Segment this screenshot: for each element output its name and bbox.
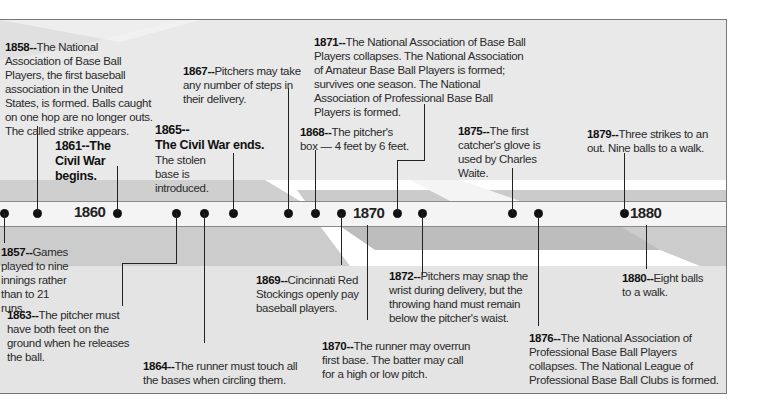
event-headline: Civil War begins. (55, 154, 145, 184)
event-year: 1872-- (389, 270, 420, 282)
event-1864: 1864--The runner must touch all the base… (143, 359, 298, 387)
connector-1867 (288, 88, 289, 213)
event-1869: 1869--Cincinnati Red Stockings openly pa… (256, 273, 361, 315)
connector-1858 (37, 126, 38, 213)
connector-1879 (624, 153, 625, 213)
connector-1872 (422, 213, 423, 275)
connector-1868 (315, 150, 316, 213)
decade-label-1870: 1870 (353, 204, 384, 221)
event-year: 1864-- (143, 360, 174, 372)
connector-1880 (646, 225, 647, 269)
connector-1863-c (122, 263, 123, 306)
event-headline: The Civil War ends. (155, 138, 265, 153)
event-year: 1870-- (322, 340, 353, 352)
decade-label-1880: 1880 (630, 204, 661, 221)
event-1879: 1879--Three strikes to an out. Nine ball… (587, 127, 712, 155)
connector-1871-b (397, 160, 425, 161)
event-year: 1869-- (256, 274, 287, 286)
event-1880: 1880--Eight balls to a walk. (622, 271, 712, 299)
event-year: 1875-- (458, 125, 489, 137)
event-1876: 1876--The National Association of Profes… (529, 331, 719, 387)
connector-1857 (4, 213, 5, 243)
connector-1876 (538, 213, 539, 326)
event-year: 1880-- (622, 272, 653, 284)
connector-1863-a (176, 213, 177, 263)
event-year: 1868-- (300, 126, 331, 138)
event-year: 1876-- (529, 332, 560, 344)
event-year: 1861--The (55, 139, 145, 154)
event-year: 1865-- (155, 123, 265, 138)
event-1858: 1858--The National Association of Base B… (5, 40, 155, 138)
event-year: 1871-- (314, 36, 345, 48)
event-year: 1863-- (7, 309, 38, 321)
event-1875: 1875--The first catcher's glove is used … (458, 124, 563, 180)
event-year: 1858-- (5, 41, 36, 53)
event-1867: 1867--Pitchers may take any number of st… (183, 64, 303, 106)
event-1871: 1871--The National Association of Base B… (314, 35, 529, 119)
decade-label-1860: 1860 (74, 203, 105, 220)
event-1870: 1870--The runner may overrun first base.… (322, 339, 472, 381)
connector-1869 (341, 213, 342, 265)
event-year: 1867-- (183, 65, 214, 77)
event-1861: 1861--The Civil War begins. (55, 139, 145, 184)
connector-1870 (367, 225, 368, 320)
event-1863: 1863--The pitcher must have both feet on… (7, 308, 142, 364)
event-1857: 1857--Games played to nine innings rathe… (1, 245, 73, 315)
connector-1864 (204, 213, 205, 343)
event-text: The National Association of Base Ball Pl… (5, 41, 153, 137)
event-1872: 1872--Pitchers may snap the wrist during… (389, 269, 529, 325)
event-year: 1857-- (1, 246, 32, 258)
event-1868: 1868--The pitcher's box — 4 feet by 6 fe… (300, 125, 410, 153)
connector-1863-b (122, 263, 177, 264)
event-1865: 1865-- The Civil War ends. The stolen ba… (155, 123, 265, 195)
event-text: The stolen base is introduced. (155, 153, 230, 195)
timeline-panel: 1860 1870 1880 1858--The National Associ… (0, 19, 727, 394)
connector-1871-c (397, 160, 398, 213)
event-year: 1879-- (587, 128, 618, 140)
event-text: The National Association of Base Ball Pl… (314, 36, 526, 118)
